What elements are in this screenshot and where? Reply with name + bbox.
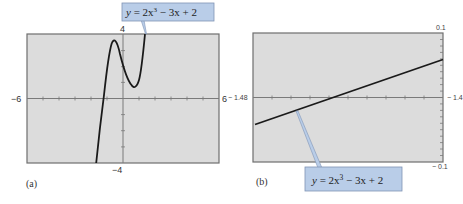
plot-a-panel-label: (a)	[26, 178, 37, 190]
panel-a: −6 6 4 −4 (a) y = 2x3 − 3x + 2	[11, 3, 227, 190]
plot-a-ymin-label: −4	[112, 165, 122, 175]
plot-b-xmin-label: − 1.48	[228, 94, 248, 101]
plot-b-ymin-label: − 0.1	[432, 163, 448, 170]
plot-a-xmin-label: −6	[11, 94, 21, 104]
plot-b-ymax-label: 0.1	[436, 24, 446, 31]
plot-b-xmax-label: − 1.4	[447, 94, 463, 101]
plot-a-xmax-label: 6	[222, 94, 227, 104]
plot-a-callout-equation: y = 2x3 − 3x + 2	[125, 6, 197, 18]
figure: −6 6 4 −4 (a) y = 2x3 − 3x + 2	[0, 0, 463, 204]
plot-a-callout-leader	[141, 20, 147, 34]
plot-a-ymax-label: 4	[120, 24, 125, 34]
plot-b-callout-equation: y = 2x3 − 3x + 2	[311, 173, 383, 187]
panel-b: − 1.48 − 1.4 0.1 − 0.1 (b) y = 2x3 − 3x …	[228, 24, 463, 191]
plot-b-panel-label: (b)	[256, 176, 268, 188]
